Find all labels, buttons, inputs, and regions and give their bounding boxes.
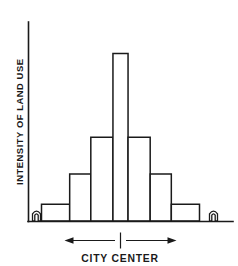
city-center-span-arrow — [65, 233, 177, 249]
table-row — [171, 204, 199, 221]
house-icon — [33, 211, 41, 221]
arrow-left-icon — [65, 237, 74, 244]
bar-group — [42, 54, 200, 222]
y-axis-label: INTENSITY OF LAND USE — [14, 59, 25, 186]
table-row — [91, 137, 113, 221]
x-axis-label: CITY CENTER — [81, 253, 158, 264]
table-row — [70, 174, 91, 221]
land-use-intensity-figure: INTENSITY OF LAND USE CITY CENTER — [0, 0, 238, 266]
table-row — [150, 174, 171, 221]
table-row — [113, 54, 128, 222]
table-row — [42, 204, 70, 221]
table-row — [128, 137, 150, 221]
arrow-right-icon — [168, 237, 177, 244]
figure-canvas: INTENSITY OF LAND USE CITY CENTER — [0, 0, 238, 266]
house-icon — [210, 211, 218, 221]
